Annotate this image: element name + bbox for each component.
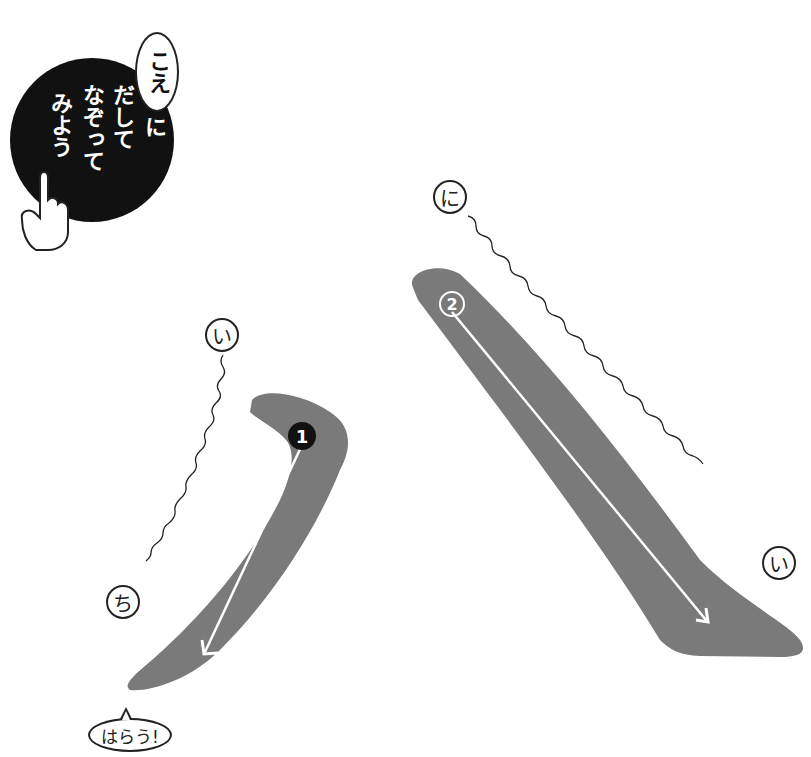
stroke-2-shape — [412, 268, 803, 657]
instruction-line-4: みよう — [46, 92, 72, 158]
stroke-1-start-label: い — [205, 318, 239, 352]
speech-bubble-koe: こえ — [135, 32, 179, 112]
instruction-line-3: なぞって — [78, 84, 104, 172]
harau-bubble-tail-inner — [122, 711, 130, 720]
instruction-line-1: に — [140, 116, 166, 138]
stroke-2-end-label: い — [762, 546, 796, 580]
stroke-2-start-label: に — [433, 180, 467, 214]
instruction-line-2: だして — [108, 84, 134, 150]
harau-note: はらう! — [88, 718, 172, 752]
stroke-2-arrow — [452, 312, 706, 620]
stroke-1-guide-line — [146, 355, 225, 561]
stroke-2-number-badge: 2 — [439, 291, 465, 317]
stroke-1-number-badge: 1 — [288, 422, 316, 450]
stroke-1-end-label: ち — [106, 585, 140, 619]
